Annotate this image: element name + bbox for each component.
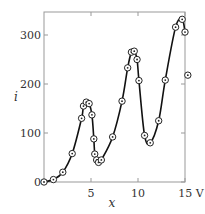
plot-frame <box>44 12 185 182</box>
data-point <box>147 140 153 146</box>
data-curve <box>44 19 185 182</box>
data-markers <box>41 16 191 185</box>
y-tick-label: 300 <box>20 29 41 42</box>
data-point <box>89 112 95 118</box>
x-axis-label: x <box>109 196 116 210</box>
data-point <box>182 29 188 35</box>
data-point <box>41 179 47 185</box>
data-point <box>91 136 97 142</box>
data-point <box>98 157 104 163</box>
data-point <box>86 100 92 106</box>
data-point <box>131 48 137 54</box>
data-point <box>78 115 84 121</box>
y-tick-label: 100 <box>20 127 41 140</box>
x-tick-label: 10 <box>131 187 145 200</box>
x-tick-label: 15 V <box>178 187 204 200</box>
data-point <box>185 72 191 78</box>
data-point <box>141 132 147 138</box>
y-tick-label: 200 <box>20 78 41 91</box>
plot-border <box>44 12 185 182</box>
data-point <box>119 98 125 104</box>
data-point <box>136 77 142 83</box>
chart: 010020030051015 V x i <box>0 0 205 214</box>
data-point <box>50 176 56 182</box>
y-tick-label: 0 <box>34 176 41 189</box>
x-tick-label: 5 <box>88 187 95 200</box>
data-point <box>134 56 140 62</box>
data-point <box>60 169 66 175</box>
data-point <box>109 134 115 140</box>
data-point <box>155 118 161 124</box>
data-point <box>162 77 168 83</box>
axis-ticks: 010020030051015 V <box>20 12 205 200</box>
data-point <box>124 65 130 71</box>
data-point <box>179 16 185 22</box>
data-point <box>69 150 75 156</box>
data-point <box>172 24 178 30</box>
y-axis-label: i <box>14 90 18 104</box>
